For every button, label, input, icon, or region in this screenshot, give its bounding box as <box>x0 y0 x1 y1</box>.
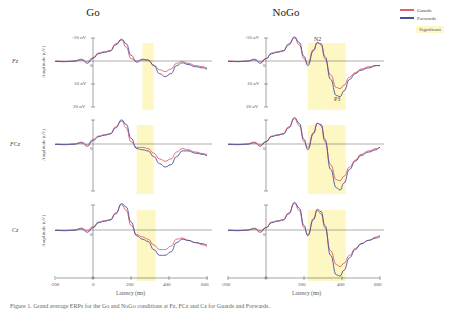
erp-line-guards <box>55 205 207 250</box>
significant-window <box>142 43 153 110</box>
erp-line-guards <box>55 40 207 71</box>
y-tick-nogo-fz-neg10: -10 uV <box>245 35 259 40</box>
y-tick-go-fz-neg10: -10 uV <box>72 35 86 40</box>
legend-item-guards: Guards <box>400 6 444 14</box>
x-tick-go-200: 200 <box>126 282 134 287</box>
x-tick-nogo-600: 600 <box>374 282 382 287</box>
y-tick-go-fz-10: 10 uV <box>74 81 86 86</box>
erp-line-forwards <box>55 204 207 256</box>
annotation-n2: N2 <box>314 36 321 42</box>
erp-line-forwards <box>228 202 380 276</box>
y-axis-label-fcz: Amplitude (uV) <box>41 129 46 161</box>
significant-window <box>321 210 346 281</box>
erp-plot-canvas <box>0 0 464 310</box>
erp-line-forwards <box>228 118 380 190</box>
significant-window <box>137 125 154 194</box>
panel-nogo-fz <box>228 37 384 110</box>
panel-nogo-fcz <box>228 118 384 194</box>
y-tick-go-cz-0: 0 <box>90 232 93 237</box>
erp-line-guards <box>55 121 207 161</box>
y-tick-nogo-fz-20: 20 uV <box>246 104 258 109</box>
annotation-p3: P3 <box>334 96 340 102</box>
y-tick-nogo-fcz-0: 0 <box>263 146 266 151</box>
significant-window <box>308 125 321 194</box>
legend-item-forwards: Forwards <box>400 14 444 22</box>
legend-label-forwards: Forwards <box>417 16 436 21</box>
erp-line-forwards <box>55 120 207 167</box>
x-axis-label-nogo: Latency (ms) <box>292 290 321 296</box>
significant-window <box>308 210 321 281</box>
y-axis-label-cz: Amplitude (uV) <box>41 215 46 247</box>
panel-go-cz <box>55 204 212 281</box>
legend-label-guards: Guards <box>417 8 431 13</box>
row-label-fz: Fz <box>12 58 18 64</box>
column-title-go: Go <box>53 6 133 18</box>
erp-line-forwards <box>55 39 207 76</box>
row-label-fcz: FCz <box>10 141 20 147</box>
x-tick-nogo-400: 400 <box>337 282 345 287</box>
x-tick-go-neg200: -200 <box>50 282 59 287</box>
x-tick-go-600: 600 <box>201 282 209 287</box>
row-label-cz: Cz <box>12 227 18 233</box>
legend-significant: Significant <box>416 26 444 33</box>
y-tick-nogo-fz-0: 0 <box>263 63 266 68</box>
guards-line-swatch <box>400 9 414 11</box>
y-tick-go-fz-0: 0 <box>90 63 93 68</box>
erp-line-guards <box>228 119 380 181</box>
x-tick-nogo-200: 200 <box>298 282 306 287</box>
erp-line-guards <box>228 204 380 267</box>
figure-caption: Figure 1. Grand average ERPs for the Go … <box>10 303 270 309</box>
column-title-nogo: NoGo <box>246 6 326 18</box>
panel-nogo-cz <box>228 202 384 281</box>
y-tick-nogo-cz-0: 0 <box>263 232 266 237</box>
x-tick-go-0: 0 <box>92 282 95 287</box>
y-tick-go-fz-20: 20 uV <box>73 104 85 109</box>
x-axis-label-go: Latency (ms) <box>116 290 145 296</box>
y-axis-label-fz: Amplitude (uV) <box>41 46 46 78</box>
y-tick-go-fcz-0: 0 <box>90 146 93 151</box>
x-tick-nogo-neg200: -200 <box>221 282 230 287</box>
legend: Guards Forwards Significant <box>400 6 444 33</box>
y-tick-nogo-fz-10: 10 uV <box>247 81 259 86</box>
forwards-line-swatch <box>400 17 414 19</box>
erp-figure: Go NoGo Fz FCz Cz Amplitude (uV) Amplitu… <box>0 0 464 310</box>
significant-window <box>137 210 156 281</box>
significant-window <box>321 125 346 194</box>
panel-go-fcz <box>55 120 212 194</box>
x-tick-go-400: 400 <box>163 282 171 287</box>
significant-window <box>308 43 321 110</box>
panel-go-fz <box>55 38 212 110</box>
erp-line-forwards <box>228 37 380 97</box>
